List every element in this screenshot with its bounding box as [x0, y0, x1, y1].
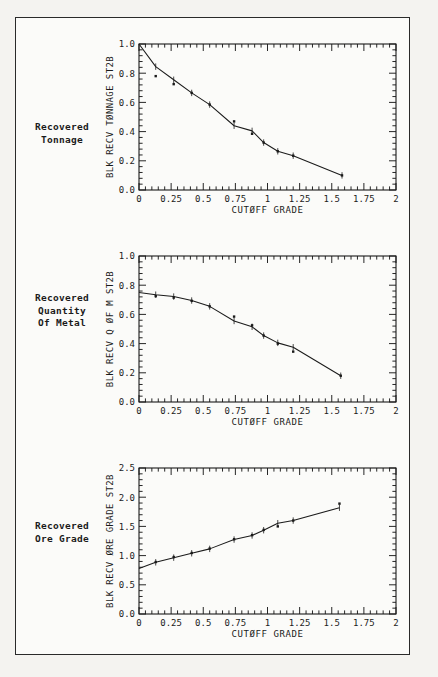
x-tick-label: 0.5	[195, 406, 211, 416]
y-axis-title: BLK RECV TØNNAGE ST2B	[105, 56, 115, 178]
x-tick-label: 1.25	[289, 194, 311, 204]
y-axis-title: BLK RECV Q ØF M ST2B	[105, 271, 115, 387]
y-tick-label: 0.5	[119, 580, 135, 590]
x-tick-label: 1.75	[353, 406, 375, 416]
x-tick-label: 1.5	[324, 194, 340, 204]
y-tick-label: 1.0	[119, 39, 135, 49]
x-tick-label: 2	[393, 618, 398, 628]
x-tick-label: 0	[136, 618, 141, 628]
x-tick-label: 1.25	[289, 406, 311, 416]
data-point	[338, 502, 340, 504]
y-tick-label: 0.0	[119, 397, 135, 407]
y-tick-label: 0.8	[119, 281, 135, 291]
x-tick-label: 1.75	[353, 194, 375, 204]
data-point	[233, 120, 235, 122]
x-tick-label: 2	[393, 406, 398, 416]
x-tick-label: 1.75	[353, 618, 375, 628]
x-tick-label: 0.25	[160, 406, 182, 416]
y-tick-label: 0.2	[119, 156, 135, 166]
x-tick-label: 0.25	[160, 194, 182, 204]
x-axis-title: CUTØFF GRADE	[231, 205, 303, 215]
plot-recovered-quantity-of-metal: 00.250.50.7511.251.51.7520.00.20.40.60.8…	[105, 251, 399, 427]
y-tick-label: 1.0	[119, 551, 135, 561]
axes-frame	[139, 44, 396, 190]
y-tick-label: 0.0	[119, 609, 135, 619]
plot-recovered-tonnage: 00.250.50.7511.251.51.7520.00.20.40.60.8…	[105, 39, 399, 215]
x-tick-label: 1	[265, 406, 270, 416]
data-point	[292, 350, 294, 352]
series-line-fitted-curve	[139, 293, 341, 376]
y-tick-label: 2.5	[119, 463, 135, 473]
plots-layer: 00.250.50.7511.251.51.7520.00.20.40.60.8…	[0, 0, 438, 677]
x-tick-label: 1.25	[289, 618, 311, 628]
y-axis-title: BLK RECV ØRE GRADE ST2B	[105, 474, 115, 608]
x-tick-label: 2	[393, 194, 398, 204]
x-tick-label: 0.75	[225, 406, 247, 416]
x-axis-title: CUTØFF GRADE	[231, 417, 303, 427]
plot-recovered-ore-grade: 00.250.50.7511.251.51.7520.00.51.01.52.0…	[105, 463, 399, 639]
figure-page: Recovered Tonnage Recovered Quantity Of …	[0, 0, 438, 677]
x-tick-label: 0.5	[195, 194, 211, 204]
x-tick-label: 0.25	[160, 618, 182, 628]
y-tick-label: 0.8	[119, 69, 135, 79]
x-tick-label: 0	[136, 406, 141, 416]
x-axis-title: CUTØFF GRADE	[231, 629, 303, 639]
y-tick-label: 0.2	[119, 368, 135, 378]
x-tick-label: 0	[136, 194, 141, 204]
y-tick-label: 0.0	[119, 185, 135, 195]
x-tick-label: 1	[265, 194, 270, 204]
data-point	[155, 75, 157, 77]
x-tick-label: 0.5	[195, 618, 211, 628]
y-tick-label: 0.4	[119, 339, 135, 349]
axes-frame	[139, 256, 396, 402]
x-tick-label: 1	[265, 618, 270, 628]
data-point	[173, 83, 175, 85]
y-tick-label: 2.0	[119, 493, 135, 503]
series-line-fitted-curve	[139, 44, 342, 175]
axes-frame	[139, 468, 396, 614]
y-tick-label: 0.6	[119, 310, 135, 320]
y-tick-label: 1.0	[119, 251, 135, 261]
x-tick-label: 0.75	[225, 618, 247, 628]
y-tick-label: 1.5	[119, 522, 135, 532]
x-tick-label: 1.5	[324, 618, 340, 628]
x-tick-label: 1.5	[324, 406, 340, 416]
x-tick-label: 0.75	[225, 194, 247, 204]
y-tick-label: 0.4	[119, 127, 135, 137]
series-line-fitted-curve	[139, 508, 339, 569]
data-point	[233, 315, 235, 317]
y-tick-label: 0.6	[119, 98, 135, 108]
